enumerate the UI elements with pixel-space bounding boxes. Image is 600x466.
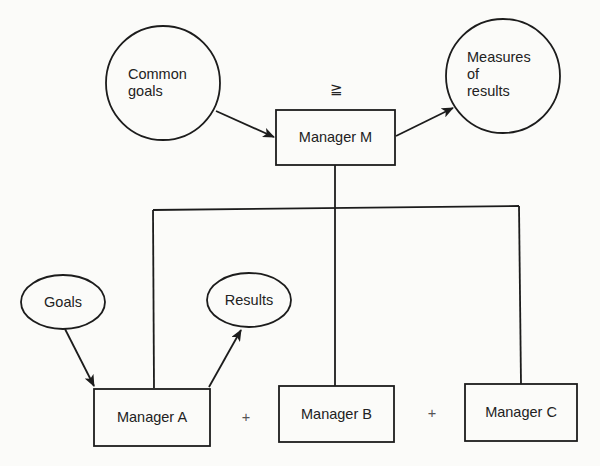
goals-label: Goals (21, 294, 105, 311)
common-goals-line-2: goals (128, 83, 187, 100)
common-goals-line-1: Common (128, 66, 187, 83)
plus-sign-2: + (422, 405, 442, 422)
arrow-manager-m-to-measures (396, 108, 453, 136)
results-label: Results (207, 292, 291, 309)
manager-m-label: Manager M (276, 129, 395, 146)
measures-line-1: Measures (467, 49, 531, 66)
manager-a-label: Manager A (94, 409, 210, 426)
greater-equal-symbol: ≧ (326, 80, 346, 97)
manager-c-label: Manager C (465, 404, 577, 421)
arrow-common-goals-to-manager-m (216, 111, 274, 137)
measures-of-results-label: Measures of results (467, 49, 531, 100)
measures-line-3: results (467, 83, 531, 100)
connector-a-vertical (153, 210, 154, 388)
arrow-goals-to-manager-a (65, 329, 94, 386)
common-goals-label: Common goals (128, 66, 187, 100)
measures-line-2: of (467, 66, 531, 83)
manager-b-label: Manager B (279, 406, 394, 423)
arrow-manager-a-to-results (209, 330, 241, 387)
plus-sign-1: + (236, 409, 256, 426)
connector-bus (153, 206, 519, 210)
connector-c-vertical (519, 206, 521, 384)
